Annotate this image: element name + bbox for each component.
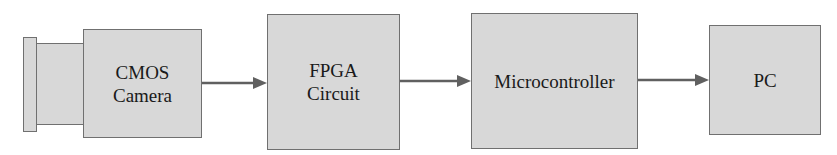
arrow-fpga-to-microcontroller (400, 75, 471, 87)
connector-arrows (0, 0, 837, 155)
arrow-microcontroller-to-pc (638, 74, 709, 86)
arrow-cmos-to-fpga (202, 77, 267, 89)
